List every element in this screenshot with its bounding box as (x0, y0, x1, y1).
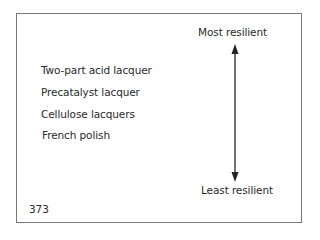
page-number: 373 (29, 203, 49, 215)
most-resilient-label: Most resilient (198, 26, 267, 38)
double-arrow-icon (229, 44, 241, 182)
finish-item-3: Cellulose lacquers (41, 108, 135, 120)
least-resilient-label: Least resilient (201, 184, 273, 196)
finish-item-1: Two-part acid lacquer (41, 64, 152, 76)
finish-item-2: Precatalyst lacquer (41, 86, 140, 98)
finish-item-4: French polish (42, 129, 110, 141)
